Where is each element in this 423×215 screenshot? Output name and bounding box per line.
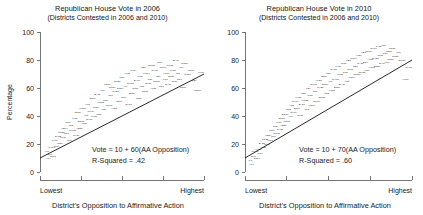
data-point-label: JI20	[148, 78, 153, 81]
panel-right-y-tick-labels: 020406080100	[227, 29, 239, 176]
data-point-label: JI20	[353, 65, 358, 68]
y-tick-label: 0	[235, 169, 239, 176]
data-point-label: JI12	[69, 124, 74, 127]
data-point-label: VB31	[116, 100, 123, 103]
data-point-label: EJ21	[129, 92, 135, 95]
data-point-label: IN3	[176, 72, 181, 75]
data-point-label: OH15	[125, 103, 132, 106]
panel-right-plot-wrap: 020406080100 AF1HT4OH7WV10EJ13LX16TL19BA…	[215, 28, 423, 215]
data-point-label: OH11	[290, 111, 297, 114]
data-point-label: BA34	[173, 59, 180, 62]
panel-right-x-axis-title: District's Opposition to Affirmative Act…	[259, 201, 391, 210]
data-point-label: AF13	[162, 78, 169, 81]
y-tick-label: 100	[227, 29, 239, 36]
y-tick-label: 0	[30, 169, 34, 176]
data-point-label: CU21	[392, 55, 399, 58]
data-point-label: MS15	[181, 62, 188, 65]
data-point-label: TL19	[54, 145, 60, 148]
panel-left-x-low-label: Lowest	[40, 187, 62, 194]
data-point-label: EJ21	[334, 86, 340, 89]
data-point-label: HT8	[85, 103, 90, 106]
data-point-label: TL27	[337, 73, 343, 76]
data-point-label: BA30	[339, 83, 346, 86]
data-point-label: EJ17	[90, 97, 96, 100]
data-point-label: PC2	[343, 71, 348, 74]
data-point-label: EJ13	[50, 155, 56, 158]
y-tick-label: 60	[26, 85, 34, 92]
data-point-label: WV22	[372, 57, 379, 60]
data-point-label: PC32	[302, 99, 309, 102]
panel-left-y-tick-labels: 020406080100	[22, 29, 34, 176]
data-point-label: XP1	[100, 89, 105, 92]
data-point-label: SR10	[365, 50, 372, 53]
data-point-label: HT4	[46, 157, 51, 160]
data-point-label: FE8	[141, 66, 146, 69]
data-point-label: IN3	[382, 44, 387, 47]
data-point-label: SR6	[121, 96, 126, 99]
data-point-label: YK22	[315, 79, 322, 82]
data-point-label: RW23	[353, 73, 361, 76]
data-point-label: DO34	[117, 87, 124, 90]
data-point-label: VB27	[76, 127, 83, 130]
data-point-label: BA26	[299, 103, 306, 106]
panel-right-title: Republican House Vote in 2010	[215, 5, 423, 14]
data-point-label: TL27	[132, 87, 138, 90]
data-point-label: YK30	[198, 71, 205, 74]
data-point-label: JI24	[396, 51, 401, 54]
data-point-label: SR6	[326, 72, 331, 75]
data-point-label: EJ13	[254, 157, 260, 160]
data-point-label: AF9	[328, 80, 333, 83]
data-point-label: HT12	[124, 72, 131, 75]
data-point-label: GY29	[152, 69, 159, 72]
panel-left-equation-annotation: Vote = 10 + 60(AA Opposition)	[92, 145, 189, 154]
data-point-label: GY21	[73, 134, 80, 137]
panel-left: Republican House Vote in 2006 (Districts…	[0, 0, 215, 215]
data-point-label: XP5	[345, 80, 350, 83]
panel-left-titles: Republican House Vote in 2006 (Districts…	[0, 5, 215, 22]
data-point-label: CU21	[188, 69, 195, 72]
data-point-label: FE12	[386, 50, 393, 53]
data-point-label: RW27	[194, 89, 202, 92]
data-point-label: UG18	[184, 73, 191, 76]
panel-right-rsquared-annotation: R-Squared = .60	[299, 156, 352, 165]
data-point-label: YK30	[402, 78, 409, 81]
data-point-label: IN25	[57, 142, 63, 145]
data-point-label: XP9	[179, 66, 184, 69]
data-point-label: AF9	[123, 85, 128, 88]
data-point-label: LX20	[91, 115, 97, 118]
data-point-label: WV18	[127, 82, 134, 85]
data-point-label: GY21	[277, 128, 284, 131]
data-point-label: EJ25	[168, 75, 174, 78]
data-point-label: LX20	[296, 96, 302, 99]
panel-right-x-ticks	[245, 176, 412, 180]
data-point-label: TL23	[93, 106, 99, 109]
data-point-label: MS7	[308, 94, 314, 97]
data-point-label: BA26	[94, 93, 101, 96]
data-point-label: EJ25	[374, 65, 380, 68]
panel-right-x-high-label: Highest	[388, 187, 412, 195]
data-point-label: VB31	[320, 75, 327, 78]
data-point-label: GY33	[405, 66, 412, 69]
data-point-label: FE4	[102, 108, 107, 111]
panel-left-title: Republican House Vote in 2006	[0, 5, 215, 14]
data-point-label: RW23	[148, 64, 156, 67]
data-point-label: VB1	[156, 75, 161, 78]
data-point-label: WV14	[87, 110, 94, 113]
data-point-label: FE4	[306, 87, 311, 90]
panel-left-x-ticks	[40, 176, 204, 180]
data-point-label: IN33	[136, 97, 142, 100]
data-point-label: RW15	[273, 132, 281, 135]
y-tick-label: 20	[231, 141, 239, 148]
data-point-label: HT12	[329, 89, 336, 92]
panel-right-titles: Republican House Vote in 2010 (Districts…	[215, 5, 423, 22]
panel-right: Republican House Vote in 2010 (Districts…	[215, 0, 423, 215]
data-point-label: XP31	[60, 136, 67, 139]
figure-root: Republican House Vote in 2006 (Districts…	[0, 0, 423, 215]
panel-left-y-axis-title: Percentage	[6, 84, 14, 120]
data-point-label: FE8	[346, 59, 351, 62]
y-tick-label: 100	[22, 29, 34, 36]
y-tick-label: 60	[231, 85, 239, 92]
panel-right-equation-annotation: Vote = 10 + 70(AA Opposition)	[299, 145, 396, 154]
data-point-label: WV18	[332, 78, 339, 81]
data-point-label: EJ17	[294, 107, 300, 110]
